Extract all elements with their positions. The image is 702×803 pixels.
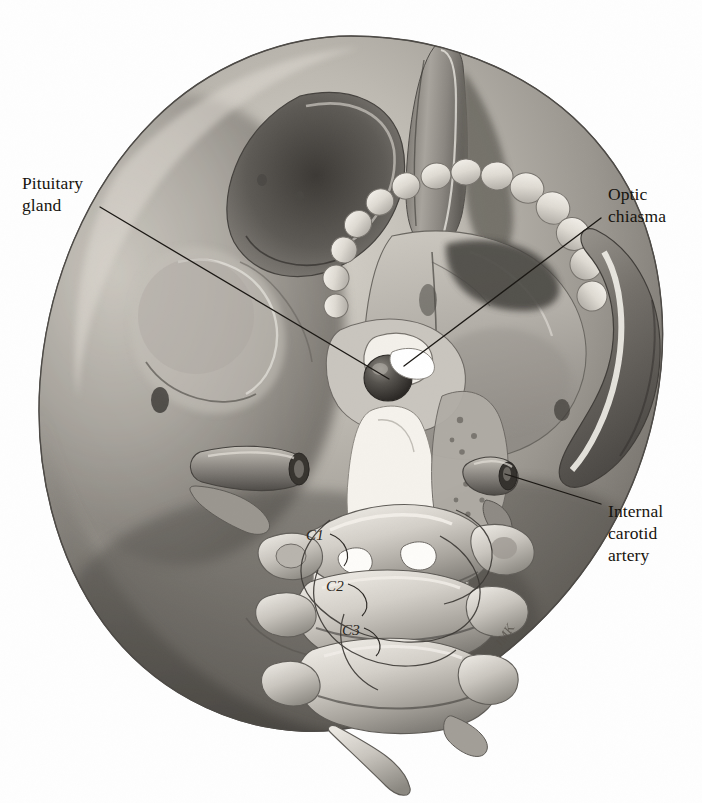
label-vertebra-c2: C2 [326, 578, 344, 595]
skull-illustration-canvas [0, 0, 702, 803]
label-optic-chiasma: Optic chiasma [608, 183, 666, 227]
label-vertebra-c3: C3 [342, 622, 360, 639]
paper-grain [0, 0, 702, 803]
label-pituitary-gland: Pituitary gland [22, 172, 83, 216]
label-vertebra-c1: C1 [306, 527, 324, 544]
label-internal-carotid-artery: Internal carotid artery [608, 500, 663, 566]
anatomical-figure: Pituitary gland Optic chiasma Internal c… [0, 0, 702, 803]
